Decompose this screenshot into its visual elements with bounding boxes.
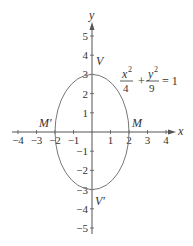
- x-tick-label: −3: [31, 134, 43, 146]
- y-tick-label: 5: [83, 30, 89, 42]
- y-tick-label: −5: [76, 222, 88, 234]
- eq-x-denominator: 4: [123, 82, 129, 94]
- eq-x-numerator: x: [121, 67, 128, 81]
- eq-rhs: = 1: [162, 74, 178, 88]
- y-tick-label: −2: [76, 164, 88, 176]
- eq-x-exponent: 2: [128, 65, 132, 74]
- y-tick-label: 4: [83, 49, 89, 61]
- eq-y-denominator: 9: [149, 82, 155, 94]
- x-tick-label: 1: [108, 134, 114, 146]
- x-axis-arrow-icon: [168, 130, 176, 135]
- x-axis-label: x: [177, 124, 184, 138]
- vertex-v-label: V: [96, 54, 105, 68]
- y-tick-label: −1: [76, 145, 88, 157]
- vertex-v-prime-label: V′: [95, 194, 105, 208]
- eq-plus: +: [138, 74, 145, 88]
- y-axis-arrow-icon: [90, 22, 95, 30]
- point-m-label: M: [131, 116, 143, 130]
- x-tick-label: −1: [68, 134, 80, 146]
- x-tick-label: −4: [12, 134, 24, 146]
- y-tick-label: 1: [83, 107, 89, 119]
- x-tick-label: 3: [145, 134, 151, 146]
- y-tick-label: −4: [76, 203, 88, 215]
- x-tick-label: 4: [163, 134, 169, 146]
- y-axis-label: y: [88, 8, 95, 22]
- ellipse-diagram: x y −4−3−2−11234 54321−1−2−3−4−5 V V′ M …: [0, 0, 193, 246]
- point-m-prime-label: M′: [38, 116, 52, 130]
- eq-y-numerator: y: [147, 67, 154, 81]
- eq-y-exponent: 2: [154, 65, 158, 74]
- y-tick-label: 2: [83, 88, 89, 100]
- ellipse-equation: x 2 4 + y 2 9 = 1: [120, 65, 178, 94]
